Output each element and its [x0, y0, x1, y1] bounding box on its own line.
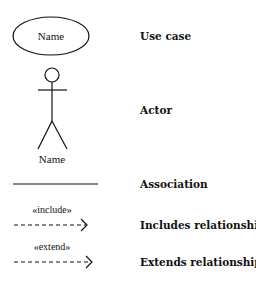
includes-label: Includes relationship — [140, 219, 256, 231]
actor-name: Name — [39, 153, 65, 165]
association-label: Association — [139, 178, 208, 190]
include-dashed-arrow-icon — [14, 219, 87, 231]
extend-dashed-arrow-icon — [14, 256, 92, 268]
include-stereotype: «include» — [32, 204, 71, 215]
extends-label: Extends relationship... — [140, 256, 256, 268]
actor-icon — [38, 68, 67, 149]
use-case-label: Use case — [140, 30, 192, 42]
extend-stereotype: «extend» — [34, 241, 71, 252]
use-case-symbol: Name — [13, 17, 89, 55]
use-case-name: Name — [38, 30, 64, 42]
uml-use-case-legend: Name Use case Name Actor Association «in… — [0, 0, 256, 287]
actor-label: Actor — [139, 104, 172, 116]
